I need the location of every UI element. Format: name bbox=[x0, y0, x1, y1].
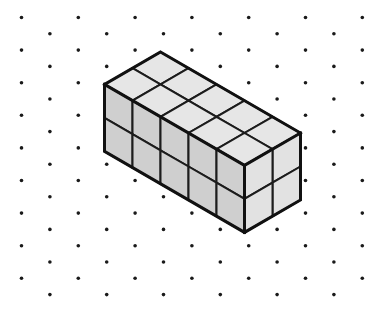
grid-dot bbox=[105, 162, 109, 166]
isometric-figure-svg bbox=[0, 0, 373, 313]
grid-dot bbox=[219, 228, 223, 232]
grid-dot bbox=[190, 48, 194, 52]
grid-dot bbox=[105, 228, 109, 232]
grid-dot bbox=[133, 277, 137, 281]
grid-dot bbox=[105, 293, 109, 297]
grid-dot bbox=[361, 81, 365, 85]
grid-dot bbox=[48, 293, 52, 297]
grid-dot bbox=[20, 211, 24, 215]
grid-dot bbox=[105, 32, 109, 36]
grid-dot bbox=[20, 81, 24, 85]
grid-dot bbox=[361, 146, 365, 150]
grid-dot bbox=[77, 81, 81, 85]
grid-dot bbox=[247, 244, 251, 248]
grid-dot bbox=[247, 48, 251, 52]
figure-root bbox=[0, 0, 373, 313]
grid-dot bbox=[332, 228, 336, 232]
grid-dot bbox=[133, 48, 137, 52]
grid-dot bbox=[162, 293, 166, 297]
grid-dot bbox=[219, 260, 223, 264]
grid-dot bbox=[77, 244, 81, 248]
grid-dot bbox=[304, 146, 308, 150]
grid-dot bbox=[48, 260, 52, 264]
grid-dot bbox=[304, 81, 308, 85]
grid-dot bbox=[361, 48, 365, 52]
grid-dot bbox=[20, 48, 24, 52]
grid-dot bbox=[332, 195, 336, 199]
grid-dot bbox=[361, 179, 365, 183]
grid-dot bbox=[219, 32, 223, 36]
grid-dot bbox=[190, 16, 194, 20]
grid-dot bbox=[332, 293, 336, 297]
grid-dot bbox=[304, 179, 308, 183]
grid-dot bbox=[332, 130, 336, 134]
grid-dot bbox=[361, 211, 365, 215]
grid-dot bbox=[247, 81, 251, 85]
grid-dot bbox=[133, 16, 137, 20]
grid-dot bbox=[247, 277, 251, 281]
grid-dot bbox=[20, 277, 24, 281]
grid-dot bbox=[77, 211, 81, 215]
grid-dot bbox=[77, 277, 81, 281]
grid-dot bbox=[275, 97, 279, 101]
grid-dot bbox=[20, 179, 24, 183]
grid-dot bbox=[48, 32, 52, 36]
grid-dot bbox=[48, 162, 52, 166]
grid-dot bbox=[133, 211, 137, 215]
grid-dot bbox=[304, 211, 308, 215]
grid-dot bbox=[133, 179, 137, 183]
grid-dot bbox=[332, 97, 336, 101]
grid-dot bbox=[48, 65, 52, 69]
grid-dot bbox=[361, 277, 365, 281]
grid-dot bbox=[20, 146, 24, 150]
grid-dot bbox=[332, 32, 336, 36]
grid-dot bbox=[304, 16, 308, 20]
grid-dot bbox=[304, 48, 308, 52]
grid-dot bbox=[77, 48, 81, 52]
grid-dot bbox=[190, 211, 194, 215]
grid-dot bbox=[275, 32, 279, 36]
grid-dot bbox=[275, 65, 279, 69]
grid-dot bbox=[361, 114, 365, 118]
grid-dot bbox=[77, 146, 81, 150]
grid-dot bbox=[332, 260, 336, 264]
grid-dot bbox=[219, 65, 223, 69]
grid-dot bbox=[275, 293, 279, 297]
grid-dot bbox=[332, 162, 336, 166]
grid-dot bbox=[20, 114, 24, 118]
grid-dot bbox=[105, 65, 109, 69]
grid-dot bbox=[219, 293, 223, 297]
grid-dot bbox=[361, 16, 365, 20]
grid-dot bbox=[48, 228, 52, 232]
grid-dot bbox=[77, 179, 81, 183]
grid-dot bbox=[162, 260, 166, 264]
grid-dot bbox=[133, 244, 137, 248]
grid-dot bbox=[105, 260, 109, 264]
grid-dot bbox=[20, 16, 24, 20]
grid-dot bbox=[361, 244, 365, 248]
grid-dot bbox=[48, 97, 52, 101]
grid-dot bbox=[77, 16, 81, 20]
grid-dot bbox=[162, 228, 166, 232]
grid-dot bbox=[20, 244, 24, 248]
grid-dot bbox=[190, 244, 194, 248]
grid-dot bbox=[247, 16, 251, 20]
grid-dot bbox=[162, 32, 166, 36]
grid-dot bbox=[304, 114, 308, 118]
grid-dot bbox=[190, 277, 194, 281]
grid-dot bbox=[105, 195, 109, 199]
grid-dot bbox=[48, 195, 52, 199]
grid-dot bbox=[332, 65, 336, 69]
grid-dot bbox=[48, 130, 52, 134]
grid-dot bbox=[304, 244, 308, 248]
grid-dot bbox=[77, 114, 81, 118]
grid-dot bbox=[162, 195, 166, 199]
grid-dot bbox=[275, 260, 279, 264]
grid-dot bbox=[304, 277, 308, 281]
grid-dot bbox=[275, 228, 279, 232]
